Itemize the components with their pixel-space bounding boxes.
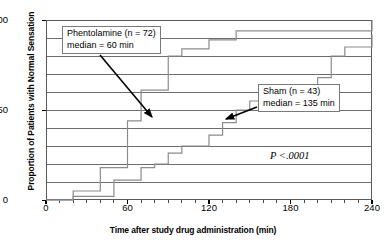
x-axis-title: Time after study drug administration (mi…: [0, 225, 386, 235]
annotation-phentolamine: Phentolamine (n = 72) median = 60 min: [62, 26, 161, 54]
chart-figure: Proportion of Patients with Normal Sensa…: [0, 0, 386, 248]
annotation-phentolamine-line2: median = 60 min: [67, 40, 156, 52]
arrow-sham: [226, 107, 257, 119]
annotation-sham-line1: Sham (n = 43): [263, 86, 335, 98]
annotation-pvalue: P <.0001: [270, 150, 310, 162]
annotation-arrows: [100, 55, 257, 119]
annotation-phentolamine-line1: Phentolamine (n = 72): [67, 28, 156, 40]
step-curve-sham: [46, 34, 372, 200]
annotation-sham-line2: median = 135 min: [263, 98, 335, 110]
curves-overlay: [0, 0, 386, 248]
arrow-phentolamine: [100, 55, 152, 117]
annotation-sham: Sham (n = 43) median = 135 min: [258, 84, 340, 112]
